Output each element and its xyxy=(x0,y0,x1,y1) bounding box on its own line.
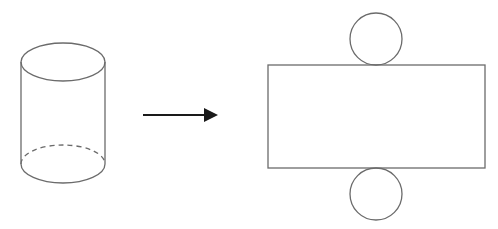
cylinder-net xyxy=(268,13,485,220)
cylinder-bottom-front-edge xyxy=(21,164,105,183)
net-lateral-rectangle xyxy=(268,65,485,168)
cylinder-net-diagram xyxy=(0,0,498,229)
net-top-circle xyxy=(350,13,402,65)
cylinder xyxy=(21,43,105,183)
net-bottom-circle xyxy=(350,168,402,220)
arrow-head-icon xyxy=(204,108,218,122)
cylinder-top-face xyxy=(21,43,105,81)
transform-arrow xyxy=(143,108,218,122)
cylinder-bottom-hidden-edge xyxy=(21,145,105,164)
